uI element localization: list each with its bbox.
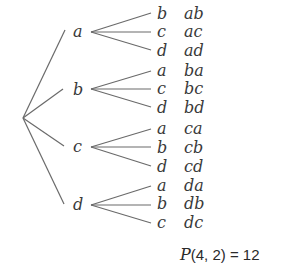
edge-c-d [91,147,151,166]
leaf-label: c [157,213,166,232]
level2-edges [91,13,151,223]
leaf-label: c [157,22,166,41]
edge-b-d [91,89,151,107]
node-b: b [73,80,83,99]
leaf-label: a [157,61,167,80]
permutation-formula: P(4, 2) = 12 [179,245,260,264]
edge-d-c [91,205,151,223]
leaf-label: d [157,41,167,60]
leaf-result: bc [184,79,203,98]
leaf-result: ba [184,61,204,80]
edge-root-d [23,118,64,204]
leaf-result: da [184,176,204,195]
root-edges [23,30,65,204]
leaf-result: ca [184,119,203,138]
leaf-result: cd [184,157,203,176]
formula-args: (4, 2) = 12 [191,246,260,263]
edge-a-b [91,13,151,32]
leaf-label: b [157,4,167,23]
leaf-result: ad [184,41,204,60]
tree-diagram: a b c d b ab c ac d ad a ba c bc d bd a … [0,0,286,272]
edge-c-a [91,129,151,147]
leaf-label: d [157,98,167,117]
svg-text:P(4, 2) = 12: P(4, 2) = 12 [179,245,260,264]
edge-root-b [23,89,63,118]
leaf-label: d [157,157,167,176]
leaf-result: dc [184,213,203,232]
leaf-result: bd [184,98,204,117]
node-d: d [73,195,83,214]
edge-root-a [23,30,65,118]
leaf-label: b [157,194,167,213]
edge-b-a [91,71,151,89]
node-c: c [73,137,82,156]
leaf-labels: b ab c ac d ad a ba c bc d bd a ca b cb … [157,4,204,232]
node-a: a [73,22,83,41]
level1-labels: a b c d [73,22,83,214]
edge-d-a [91,186,151,205]
leaf-result: ab [184,4,204,23]
leaf-result: cb [184,138,203,157]
leaf-label: b [157,138,167,157]
leaf-label: c [157,79,166,98]
leaf-label: a [157,119,167,138]
edge-a-d [91,32,151,50]
formula-function: P [179,245,191,264]
leaf-result: db [184,194,204,213]
leaf-result: ac [184,22,203,41]
leaf-label: a [157,176,167,195]
